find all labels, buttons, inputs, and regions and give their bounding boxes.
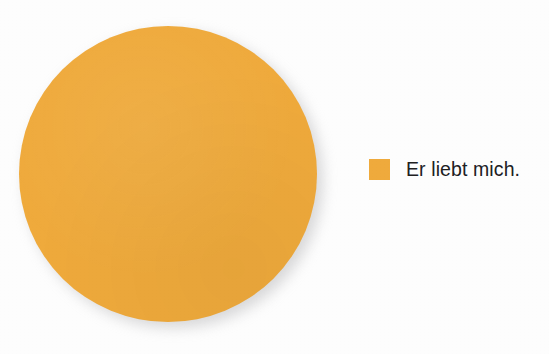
- legend-color-swatch: [369, 159, 390, 180]
- chart-figure: Er liebt mich.: [0, 0, 549, 354]
- pie-slice-er-liebt-mich: [19, 26, 317, 322]
- legend-item-label: Er liebt mich.: [406, 159, 520, 180]
- pie-plot-area: [0, 0, 340, 354]
- chart-legend: Er liebt mich.: [369, 159, 520, 180]
